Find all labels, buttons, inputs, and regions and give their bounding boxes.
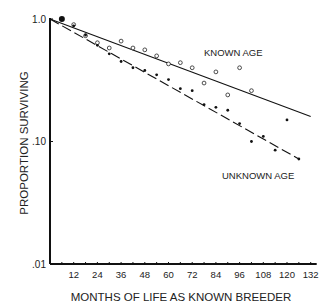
x-tick-label: 36 bbox=[116, 269, 127, 280]
unknown-age-point bbox=[297, 158, 300, 161]
x-tick-label: 48 bbox=[140, 269, 151, 280]
start-point bbox=[59, 16, 65, 22]
unknown-age-point bbox=[191, 89, 194, 92]
unknown-age-point bbox=[167, 78, 170, 81]
x-tick-label: 60 bbox=[163, 269, 174, 280]
unknown-age-point bbox=[72, 24, 75, 27]
x-tick-label: 24 bbox=[92, 269, 103, 280]
known-age-point bbox=[178, 61, 182, 65]
y-axis-title: PROPORTION SURVIVING bbox=[18, 71, 30, 214]
unknown-age-point bbox=[203, 103, 206, 106]
x-tick-label: 96 bbox=[234, 269, 245, 280]
axes: 12243648607284961081201321.0.10.01 bbox=[32, 14, 319, 281]
unknown-age-point bbox=[274, 149, 277, 152]
known-age-point bbox=[155, 54, 159, 58]
known-age-point bbox=[190, 66, 194, 70]
x-tick-label: 84 bbox=[211, 269, 222, 280]
survival-chart: 12243648607284961081201321.0.10.01 KNOWN… bbox=[0, 0, 333, 307]
unknown-age-point bbox=[84, 34, 87, 37]
known-age-fit-line bbox=[50, 19, 311, 116]
unknown-age-point bbox=[238, 122, 241, 125]
unknown-age-point bbox=[132, 66, 135, 69]
unknown-age-fit-line bbox=[50, 19, 299, 159]
unknown-age-point bbox=[155, 73, 158, 76]
unknown-age-point bbox=[108, 52, 111, 55]
known-age-point bbox=[238, 66, 242, 70]
unknown-age-point bbox=[96, 44, 99, 47]
known-age-point bbox=[119, 39, 123, 43]
known-age-point bbox=[250, 89, 254, 93]
known-age-point bbox=[131, 46, 135, 50]
unknown-age-point bbox=[179, 87, 182, 90]
x-tick-label: 120 bbox=[279, 269, 295, 280]
unknown-age-point bbox=[250, 140, 253, 143]
unknown-age-point bbox=[143, 69, 146, 72]
known-age-point bbox=[226, 93, 230, 97]
data-points bbox=[59, 16, 300, 160]
known-age-point bbox=[143, 48, 147, 52]
y-tick-label: 1.0 bbox=[32, 14, 46, 25]
x-tick-label: 12 bbox=[68, 269, 79, 280]
x-tick-label: 108 bbox=[255, 269, 271, 280]
unknown-age-point bbox=[215, 106, 218, 109]
known-age-point bbox=[167, 62, 171, 66]
known-age-label: KNOWN AGE bbox=[204, 47, 263, 58]
known-age-point bbox=[214, 70, 218, 74]
unknown-age-label: UNKNOWN AGE bbox=[222, 170, 294, 181]
unknown-age-point bbox=[120, 60, 123, 63]
unknown-age-point bbox=[226, 109, 229, 112]
x-axis-title: MONTHS OF LIFE AS KNOWN BREEDER bbox=[71, 291, 291, 303]
y-tick-label: .01 bbox=[32, 259, 46, 270]
y-tick-label: .10 bbox=[32, 136, 46, 147]
unknown-age-point bbox=[286, 119, 289, 122]
unknown-age-point bbox=[262, 135, 265, 138]
x-tick-label: 72 bbox=[187, 269, 198, 280]
x-tick-label: 132 bbox=[303, 269, 319, 280]
known-age-point bbox=[202, 81, 206, 85]
known-age-point bbox=[107, 46, 111, 50]
